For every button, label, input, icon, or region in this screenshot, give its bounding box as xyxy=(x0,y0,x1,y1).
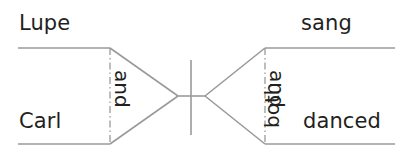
predicate-word-lower: danced xyxy=(303,111,381,132)
predicate-word-upper: sang xyxy=(301,13,352,34)
predicate-lower-diagonal xyxy=(205,96,265,144)
subject-word-upper: Lupe xyxy=(19,13,70,34)
subject-conjunction-label: and xyxy=(112,70,132,108)
predicate-conjunction-label: and xyxy=(267,70,287,108)
predicate-upper-diagonal xyxy=(205,48,265,96)
sentence-diagram: Lupe Carl sang danced and both and xyxy=(0,0,411,156)
subject-word-lower: Carl xyxy=(19,111,61,132)
